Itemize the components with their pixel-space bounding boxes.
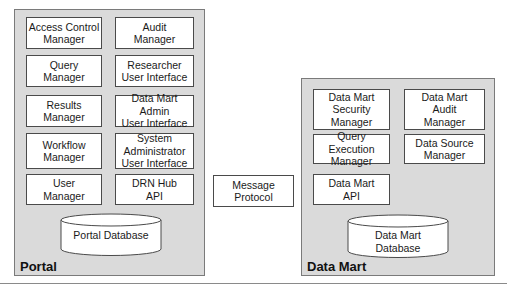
portal-database-label: Portal Database: [60, 229, 162, 242]
data-mart-security-manager-box: Data Mart Security Manager: [313, 89, 390, 130]
data-mart-audit-manager-box: Data Mart Audit Manager: [404, 89, 485, 130]
researcher-ui-box: Researcher User Interface: [115, 55, 194, 87]
data-mart-label: Data Mart: [307, 259, 366, 274]
data-mart-api-box: Data Mart API: [313, 174, 390, 205]
data-source-manager-box: Data Source Manager: [404, 134, 485, 164]
portal-database-cylinder: Portal Database: [60, 213, 162, 257]
data-mart-admin-ui-box: Data Mart Admin User Interface: [115, 95, 194, 127]
data-mart-database-cylinder: Data Mart Database: [347, 214, 449, 259]
results-manager-box: Results Manager: [26, 95, 102, 127]
bottom-divider: [0, 283, 507, 284]
user-manager-box: User Manager: [26, 174, 102, 205]
data-mart-database-label: Data Mart Database: [347, 229, 449, 254]
workflow-manager-box: Workflow Manager: [26, 133, 102, 169]
drn-hub-api-box: DRN Hub API: [115, 174, 194, 205]
message-protocol-box: Message Protocol: [213, 175, 294, 207]
audit-manager-box: Audit Manager: [115, 17, 194, 49]
access-control-manager-box: Access Control Manager: [26, 17, 102, 49]
query-manager-box: Query Manager: [26, 55, 102, 87]
portal-label: Portal: [20, 259, 57, 274]
system-admin-ui-box: System Administrator User Interface: [115, 133, 194, 169]
query-execution-manager-box: Query Execution Manager: [313, 134, 390, 164]
